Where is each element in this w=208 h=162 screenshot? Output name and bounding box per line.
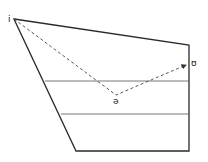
label-end-vowel: ʊ <box>191 58 197 68</box>
vowel-trapezoid-diagram: i ə ʊ <box>0 0 208 162</box>
glide-path-dashed <box>14 19 186 95</box>
trapezoid-outline <box>14 19 189 151</box>
label-mid-vowel: ə <box>113 96 119 106</box>
label-start-vowel: i <box>8 14 11 24</box>
